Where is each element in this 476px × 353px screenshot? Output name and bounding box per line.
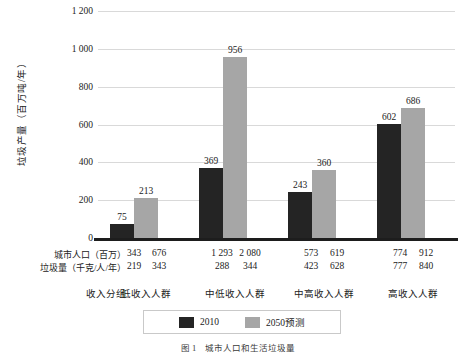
bar-value-label: 360 [317, 158, 331, 168]
table-row-label: 城市人口（百万） [18, 248, 126, 261]
bar-value-label: 75 [117, 212, 127, 222]
legend-label-2010: 2010 [200, 317, 219, 327]
legend-label-2050: 2050预测 [266, 315, 305, 329]
table-cell: 619 [330, 248, 344, 258]
bar-2050预测[interactable]: 213 [134, 198, 158, 238]
table-cell: 343 [152, 261, 166, 271]
legend-swatch-2010 [179, 317, 194, 328]
category-label: 高收入人群 [388, 286, 438, 300]
table-cell: 288 [215, 261, 229, 271]
bar-value-label: 686 [406, 96, 420, 106]
y-tick-label: 1 200 [72, 6, 93, 16]
figure-caption: 图 1 城市人口和生活垃圾量 [0, 341, 476, 353]
table-cell: 219 [127, 261, 141, 271]
x-axis-baseline [94, 238, 458, 241]
category-label: 中高收入人群 [294, 286, 354, 300]
bar-value-label: 956 [228, 45, 242, 55]
bar-2010[interactable]: 602 [377, 124, 401, 238]
legend-item-2010[interactable]: 2010 [179, 317, 219, 328]
table-cell: 343 [127, 248, 141, 258]
table-cell: 912 [419, 248, 433, 258]
bar-2050预测[interactable]: 956 [223, 57, 247, 238]
table-cell: 628 [330, 261, 344, 271]
bar-group: 602686 [377, 11, 425, 238]
table-cell: 774 [393, 248, 407, 258]
table-cell: 777 [393, 261, 407, 271]
table-cell: 423 [304, 261, 318, 271]
chart-legend: 2010 2050预测 [143, 310, 341, 334]
group-row-title: 收入分组 [18, 286, 126, 300]
category-label: 低收入人群 [121, 286, 171, 300]
legend-swatch-2050 [245, 317, 260, 328]
y-tick-label: 0 [88, 233, 93, 243]
bar-2010[interactable]: 243 [288, 192, 312, 238]
table-cell: 676 [152, 248, 166, 258]
bar-2050预测[interactable]: 686 [401, 108, 425, 238]
table-cell: 573 [304, 248, 318, 258]
y-tick-label: 600 [79, 120, 93, 130]
y-tick-label: 800 [79, 82, 93, 92]
category-label: 中低收入人群 [205, 286, 265, 300]
plot-area: 02004006008001 0001 200 7521336995624336… [98, 11, 455, 238]
bar-group: 75213 [110, 11, 158, 238]
bar-group: 369956 [199, 11, 247, 238]
y-tick-label: 200 [79, 195, 93, 205]
table-row-label: 垃圾量（千克/人/年） [18, 261, 126, 274]
y-axis-title: 垃圾产量（百万吨/年） [14, 27, 28, 197]
bar-2050预测[interactable]: 360 [312, 170, 336, 238]
bar-value-label: 602 [382, 112, 396, 122]
bar-2010[interactable]: 75 [110, 224, 134, 238]
bar-value-label: 369 [204, 156, 218, 166]
table-cell: 840 [419, 261, 433, 271]
legend-item-2050[interactable]: 2050预测 [245, 315, 305, 329]
table-cell: 2 080 [239, 248, 260, 258]
table-cell: 1 293 [211, 248, 232, 258]
y-tick-label: 1 000 [72, 44, 93, 54]
bar-2010[interactable]: 369 [199, 168, 223, 238]
bar-group: 243360 [288, 11, 336, 238]
table-cell: 344 [243, 261, 257, 271]
y-tick-label: 400 [79, 157, 93, 167]
bar-value-label: 213 [139, 186, 153, 196]
bar-value-label: 243 [293, 180, 307, 190]
